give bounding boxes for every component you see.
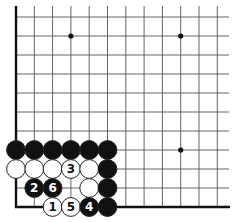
stone-body [7,141,26,160]
stone-body [62,141,81,160]
stone-body [25,160,44,179]
black-stone [7,141,26,160]
black-stone: 2 [25,179,44,198]
white-stone [25,160,44,179]
stone-body [7,160,26,179]
stone-body [43,141,62,160]
move-number-label: 4 [85,200,93,214]
white-stone: 1 [43,198,62,217]
white-stone [80,160,99,179]
star-point [68,33,73,38]
black-stone [98,141,117,160]
black-stone [43,141,62,160]
stone-body [80,141,99,160]
star-point [178,33,183,38]
star-point [178,147,183,152]
black-stone: 4 [80,198,99,217]
black-stone [98,179,117,198]
black-stone [62,141,81,160]
stone-body [80,160,99,179]
stone-body [98,198,117,217]
move-number-label: 3 [67,162,75,176]
black-stone [98,198,117,217]
white-stone [43,160,62,179]
black-stone: 6 [43,179,62,198]
move-number-label: 2 [30,181,38,195]
black-stone [25,141,44,160]
move-number-label: 1 [48,200,56,214]
stone-body [43,160,62,179]
go-board: 326154 [0,0,234,222]
stones-layer: 326154 [7,141,117,217]
black-stone [98,160,117,179]
stone-body [80,179,99,198]
white-stone: 3 [62,160,81,179]
move-number-label: 5 [67,200,75,214]
stone-body [98,141,117,160]
stone-body [98,160,117,179]
black-stone [80,141,99,160]
white-stone [7,160,26,179]
move-number-label: 6 [48,181,56,195]
white-stone: 5 [62,198,81,217]
stone-body [98,179,117,198]
stone-body [25,141,44,160]
white-stone [80,179,99,198]
